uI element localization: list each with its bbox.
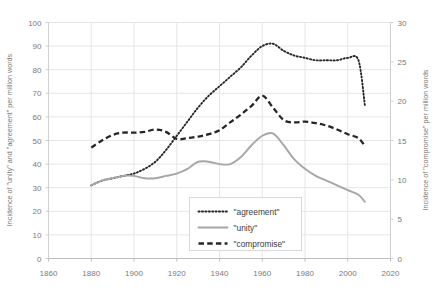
y2-axis-title: Incidence of "compromise" per million wo… [421, 69, 430, 210]
y-tick-label: 50 [33, 137, 42, 146]
y-tick-label: 0 [37, 255, 42, 264]
y-tick-label: 80 [33, 66, 42, 75]
x-tick-label: 1980 [296, 269, 314, 278]
legend-item-label[interactable]: "agreement" [234, 207, 280, 217]
y2-tick-label: 25 [398, 58, 407, 67]
x-tick-label: 1960 [253, 269, 271, 278]
y2-tick-label: 30 [398, 19, 407, 28]
y2-tick-label: 10 [398, 176, 407, 185]
chart-container: 186018801900192019401960198020002020 010… [0, 0, 435, 293]
y2-tick-label: 20 [398, 97, 407, 106]
x-tick-label: 1900 [125, 269, 143, 278]
x-tick-label: 1940 [211, 269, 229, 278]
y-tick-label: 70 [33, 89, 42, 98]
y2-tick-label: 0 [398, 255, 403, 264]
x-tick-label: 1860 [40, 269, 58, 278]
y2-tick-label: 5 [398, 215, 403, 224]
y-axis-title: Incidence of "unity" and "agreement" per… [5, 53, 14, 226]
x-tick-label: 1880 [82, 269, 100, 278]
legend-item-label[interactable]: "unity" [234, 223, 258, 233]
y-tick-label: 90 [33, 42, 42, 51]
y-tick-label: 20 [33, 207, 42, 216]
legend-item-label[interactable]: "compromise" [234, 239, 286, 249]
x-tick-label: 1920 [168, 269, 186, 278]
line-chart: 186018801900192019401960198020002020 010… [0, 0, 435, 293]
y-tick-label: 30 [33, 184, 42, 193]
y-tick-label: 10 [33, 231, 42, 240]
y2-tick-label: 15 [398, 137, 407, 146]
x-tick-label: 2000 [339, 269, 357, 278]
y-tick-label: 60 [33, 113, 42, 122]
x-tick-label: 2020 [382, 269, 400, 278]
chart-legend: "agreement""unity""compromise" [190, 198, 302, 251]
y-tick-label: 100 [28, 19, 42, 28]
y-tick-label: 40 [33, 160, 42, 169]
